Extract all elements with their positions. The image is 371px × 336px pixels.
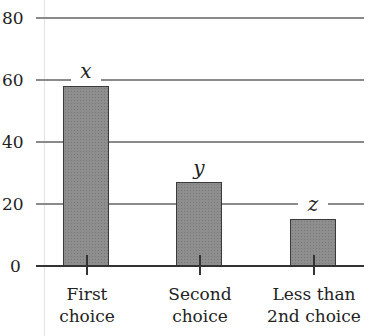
bar-label: x: [71, 61, 101, 81]
y-tick-label: 60: [2, 71, 32, 89]
x-tick: [86, 255, 88, 275]
gridline-80: [36, 17, 364, 19]
bar-first-choice: [63, 86, 109, 267]
x-label-first-choice: First choice: [32, 283, 142, 327]
y-tick-label: 20: [2, 195, 32, 213]
x-label-line: First: [32, 283, 142, 305]
bar-label: z: [298, 194, 328, 214]
x-tick: [313, 255, 315, 275]
x-label-line: choice: [32, 305, 142, 327]
x-label-second-choice: Second choice: [145, 283, 255, 327]
y-tick-label: 40: [2, 133, 32, 151]
x-label-line: choice: [145, 305, 255, 327]
bar-label: y: [184, 158, 214, 178]
x-tick: [199, 255, 201, 275]
x-label-line: Second: [145, 283, 255, 305]
x-label-less-than-second: Less than 2nd choice: [259, 283, 369, 327]
x-label-line: 2nd choice: [259, 305, 369, 327]
x-label-line: Less than: [259, 283, 369, 305]
y-tick-label: 80: [2, 9, 32, 27]
